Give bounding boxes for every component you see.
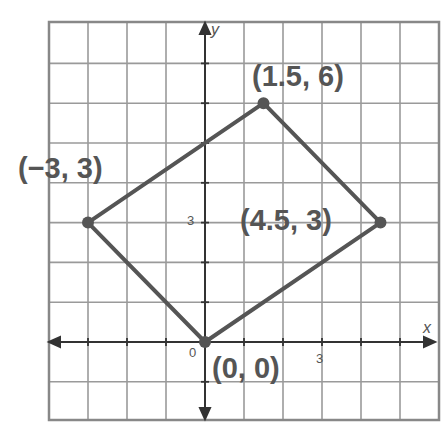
point-label-right: (4.5, 3) [240, 206, 332, 235]
vertex-point [375, 217, 387, 229]
x-axis-arrow-left-icon [49, 337, 60, 347]
vertex-point [199, 336, 211, 348]
origin-tick-label: 0 [189, 346, 196, 359]
vertex-point [82, 217, 94, 229]
y-axis-label: y [211, 22, 219, 38]
y-tick-label-3: 3 [187, 214, 194, 227]
point-label-top: (1.5, 6) [252, 62, 344, 91]
x-axis-label: x [423, 320, 431, 336]
x-tick-label-3: 3 [316, 352, 323, 365]
vertex-point [258, 97, 270, 109]
point-label-left: (−3, 3) [18, 154, 103, 183]
x-axis-arrow-right-icon [424, 337, 435, 347]
point-label-origin: (0, 0) [212, 354, 280, 383]
x-axis [49, 337, 435, 347]
y-axis-arrow-down-icon [200, 408, 210, 419]
y-axis [200, 23, 210, 419]
y-axis-arrow-up-icon [200, 23, 210, 34]
